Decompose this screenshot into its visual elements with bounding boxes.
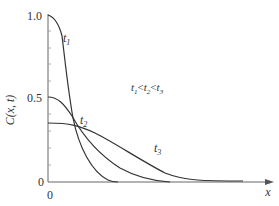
y-axis-label: C(x, t) <box>3 95 17 126</box>
curve-label-t2: t2 <box>80 113 87 129</box>
curve-t3 <box>48 123 243 181</box>
time-order-annotation: t1<t2<t3 <box>131 81 164 96</box>
curve-label-t3: t3 <box>154 141 161 157</box>
y-tick-0: 0 <box>38 175 44 189</box>
curves <box>48 15 243 182</box>
curve-t2 <box>48 97 170 182</box>
x-tick-0: 0 <box>47 188 53 202</box>
x-axis-label: x <box>264 185 271 199</box>
y-tick-0-5: 0.5 <box>27 91 42 105</box>
curve-t1 <box>48 15 118 182</box>
y-tick-1-0: 1.0 <box>27 9 42 23</box>
curve-label-t1: t1 <box>63 31 70 47</box>
axes <box>48 14 274 185</box>
chart-canvas: 1.0 0.5 0 0 C(x, t) x t1 t2 t3 t1<t2<t3 <box>0 0 279 206</box>
